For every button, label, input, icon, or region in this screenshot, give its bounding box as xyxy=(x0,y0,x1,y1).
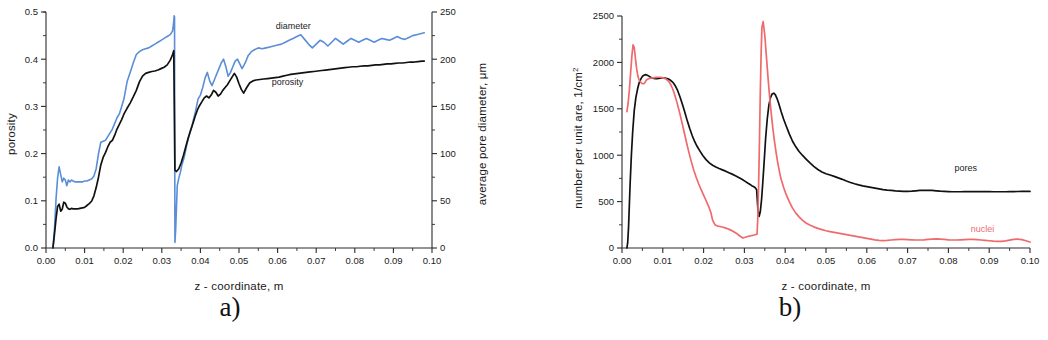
x-tick-label-a: 0.08 xyxy=(346,255,365,266)
series-label-nuclei: nuclei xyxy=(971,224,995,234)
y-tick-label-a: 0.0 xyxy=(25,242,38,253)
x-tick-label-a: 0.06 xyxy=(268,255,287,266)
panel-caption-b: b) xyxy=(760,292,820,323)
porosity-diameter-chart: 0.00.10.20.30.40.50501001502002500.000.0… xyxy=(0,0,520,300)
chart-panel-b: 050010001500200025000.000.010.020.030.04… xyxy=(560,0,1048,340)
x-tick-label-a: 0.10 xyxy=(423,255,442,266)
x-tick-label-a: 0.09 xyxy=(384,255,403,266)
x-axis-title-a: z - coordinate, m xyxy=(194,280,283,292)
x-tick-label-b: 0.02 xyxy=(694,255,713,266)
y2-tick-label-a: 250 xyxy=(440,6,456,17)
y-tick-label-b: 500 xyxy=(598,196,614,207)
series-label-diameter: diameter xyxy=(276,21,311,31)
x-tick-label-b: 0.07 xyxy=(898,255,917,266)
x-tick-label-b: 0.04 xyxy=(776,255,795,266)
x-tick-label-a: 0.01 xyxy=(75,255,94,266)
y2-tick-label-a: 50 xyxy=(440,195,451,206)
y-tick-label-a: 0.2 xyxy=(25,148,38,159)
x-tick-label-a: 0.07 xyxy=(307,255,326,266)
x-tick-label-b: 0.01 xyxy=(654,255,673,266)
y-axis-title-b: number per unit are, 1/cm2 xyxy=(571,67,584,209)
y-tick-label-a: 0.1 xyxy=(25,195,38,206)
y2-tick-label-a: 100 xyxy=(440,148,456,159)
y2-tick-label-a: 150 xyxy=(440,101,456,112)
svg-text:number per unit are, 1/cm2: number per unit are, 1/cm2 xyxy=(571,67,584,209)
y-tick-label-b: 0 xyxy=(609,242,614,253)
x-tick-label-b: 0.09 xyxy=(980,255,999,266)
y-tick-label-b: 1500 xyxy=(593,103,614,114)
x-tick-label-a: 0.02 xyxy=(114,255,133,266)
x-tick-label-a: 0.00 xyxy=(37,255,56,266)
x-tick-label-b: 0.06 xyxy=(858,255,877,266)
y2-axis-title-a: average pore diameter, μm xyxy=(476,63,488,206)
x-axis-title-b: z - coordinate, m xyxy=(781,280,870,292)
y2-tick-label-a: 200 xyxy=(440,54,456,65)
series-label-pores: pores xyxy=(955,163,978,173)
y-tick-label-b: 2500 xyxy=(593,10,614,21)
series-label-porosity: porosity xyxy=(272,77,304,87)
y-tick-label-b: 1000 xyxy=(593,150,614,161)
x-tick-label-a: 0.04 xyxy=(191,255,210,266)
panel-caption-a: a) xyxy=(200,292,260,323)
x-tick-label-b: 0.05 xyxy=(817,255,836,266)
chart-panel-a: 0.00.10.20.30.40.50501001502002500.000.0… xyxy=(0,0,520,340)
x-tick-label-b: 0.00 xyxy=(613,255,632,266)
series-line-nuclei xyxy=(627,22,1030,242)
x-tick-label-a: 0.03 xyxy=(153,255,172,266)
y-tick-label-a: 0.4 xyxy=(25,54,38,65)
series-line-porosity xyxy=(53,51,424,248)
y-tick-label-a: 0.5 xyxy=(25,6,38,17)
y2-tick-label-a: 0 xyxy=(440,242,445,253)
x-tick-label-b: 0.08 xyxy=(939,255,958,266)
series-line-pores xyxy=(627,75,1030,248)
y-tick-label-b: 2000 xyxy=(593,57,614,68)
x-tick-label-b: 0.03 xyxy=(735,255,754,266)
y-axis-title-a: porosity xyxy=(5,113,17,155)
series-line-diameter xyxy=(53,16,424,248)
pores-nuclei-chart: 050010001500200025000.000.010.020.030.04… xyxy=(560,0,1048,300)
figure-container: 0.00.10.20.30.40.50501001502002500.000.0… xyxy=(0,0,1048,340)
y-tick-label-a: 0.3 xyxy=(25,101,38,112)
x-tick-label-a: 0.05 xyxy=(230,255,249,266)
x-tick-label-b: 0.10 xyxy=(1021,255,1040,266)
